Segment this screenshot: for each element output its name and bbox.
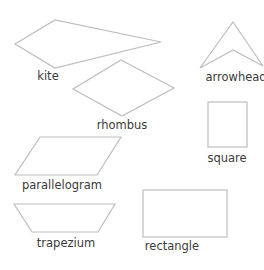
kite-label: kite bbox=[37, 69, 58, 83]
rectangle-label: rectangle bbox=[145, 239, 199, 253]
diagram-canvas: kite arrowhead rhombus square parallelog… bbox=[0, 0, 264, 270]
rhombus-shape bbox=[73, 60, 174, 116]
parallelogram-shape bbox=[15, 137, 121, 175]
rhombus-group: rhombus bbox=[73, 60, 174, 132]
square-group: square bbox=[207, 102, 247, 165]
arrowhead-group: arrowhead bbox=[200, 22, 264, 84]
rhombus-label: rhombus bbox=[97, 118, 148, 132]
trapezium-group: trapezium bbox=[14, 204, 115, 250]
square-shape bbox=[208, 102, 247, 147]
quadrilaterals-diagram: kite arrowhead rhombus square parallelog… bbox=[0, 0, 264, 270]
arrowhead-shape bbox=[200, 22, 263, 68]
parallelogram-group: parallelogram bbox=[15, 137, 121, 192]
rectangle-shape bbox=[143, 190, 227, 237]
parallelogram-label: parallelogram bbox=[22, 178, 102, 192]
rectangle-group: rectangle bbox=[143, 190, 227, 253]
arrowhead-label: arrowhead bbox=[205, 70, 264, 84]
trapezium-shape bbox=[14, 204, 115, 232]
trapezium-label: trapezium bbox=[37, 236, 95, 250]
square-label: square bbox=[207, 151, 246, 165]
kite-shape bbox=[15, 20, 161, 68]
